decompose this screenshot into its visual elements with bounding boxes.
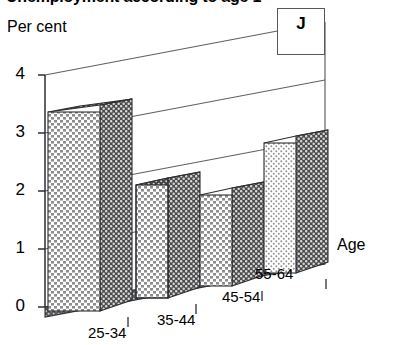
- plot-area: [0, 0, 393, 345]
- bar-group-35-44: [136, 172, 200, 298]
- x-tick-35-44: 35-44: [157, 311, 195, 328]
- chart-canvas: Unemployment according to age 1 Per cent: [0, 0, 393, 345]
- y-tick-0: 0: [5, 297, 25, 314]
- y-tick-1: 1: [5, 239, 25, 256]
- x-tick-25-34: 25-34: [88, 324, 126, 341]
- y-axis: [38, 75, 45, 307]
- bar-group-25-34: [48, 99, 132, 311]
- x-tick-55-64: 55-64: [255, 265, 293, 282]
- x-axis-caption: Age: [337, 236, 365, 254]
- y-tick-4: 4: [5, 65, 25, 82]
- x-tick-45-54: 45-54: [222, 288, 260, 305]
- y-tick-2: 2: [5, 181, 25, 198]
- legend-key-label: J: [277, 14, 325, 34]
- y-tick-3: 3: [5, 123, 25, 140]
- bar-group-55-64: [264, 130, 328, 273]
